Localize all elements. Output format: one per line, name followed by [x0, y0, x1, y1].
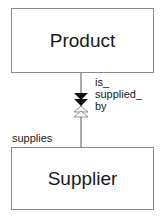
filled-arrowhead-icon: [74, 93, 88, 100]
role-label-supplies: supplies: [12, 132, 52, 144]
entity-supplier[interactable]: Supplier: [11, 147, 154, 210]
filled-arrowhead-icon: [74, 99, 88, 106]
role-line: by: [95, 100, 142, 112]
role-line: supplied_: [95, 88, 142, 100]
role-line: is_: [95, 76, 142, 88]
role-label-is-supplied-by: is_ supplied_ by: [95, 76, 142, 112]
entity-supplier-label: Supplier: [48, 168, 118, 190]
